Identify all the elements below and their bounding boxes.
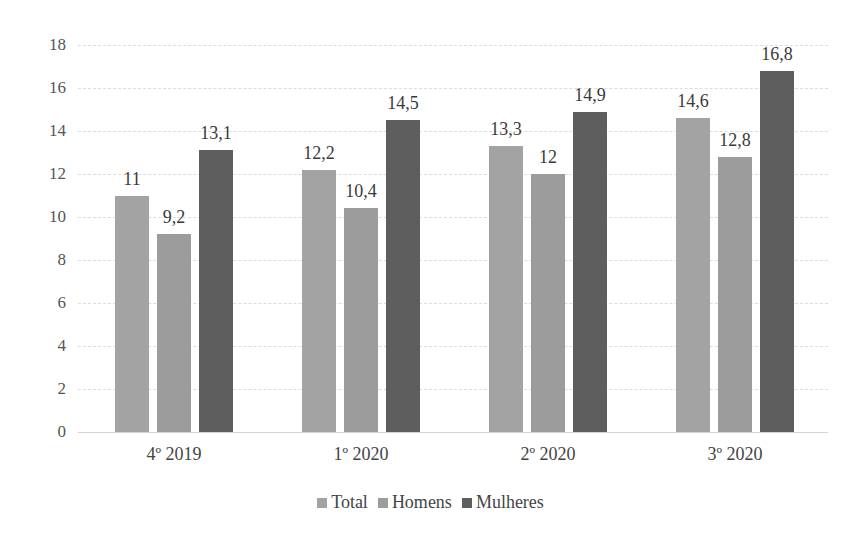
data-label: 9,2 [144, 207, 204, 228]
bar-chart: 024681012141618 119,213,112,210,414,513,… [0, 0, 861, 540]
bar-total [676, 118, 710, 432]
y-tick-label: 0 [58, 422, 67, 442]
y-tick-label: 6 [58, 293, 67, 313]
bar-mulheres [199, 150, 233, 432]
y-tick-label: 4 [58, 336, 67, 356]
data-label: 14,5 [373, 93, 433, 114]
data-label: 10,4 [331, 181, 391, 202]
bar-homens [531, 174, 565, 432]
data-label: 12 [518, 147, 578, 168]
data-label: 12,8 [705, 130, 765, 151]
bar-total [115, 196, 149, 433]
data-label: 16,8 [747, 44, 807, 65]
legend-label: Homens [392, 492, 452, 513]
bar-mulheres [760, 71, 794, 432]
y-tick-label: 12 [49, 164, 66, 184]
data-label: 13,3 [476, 119, 536, 140]
bar-mulheres [386, 120, 420, 432]
legend-item-mulheres: Mulheres [462, 492, 544, 513]
bar-homens [718, 157, 752, 432]
legend-label: Total [331, 492, 368, 513]
x-tick-label: 3º 2020 [665, 444, 805, 465]
x-tick-label: 2º 2020 [478, 444, 618, 465]
x-tick-label: 1º 2020 [291, 444, 431, 465]
x-axis-line [78, 432, 828, 433]
legend: TotalHomensMulheres [0, 492, 861, 513]
y-tick-label: 14 [49, 121, 66, 141]
bar-homens [157, 234, 191, 432]
y-tick-label: 2 [58, 379, 67, 399]
y-tick-label: 16 [49, 78, 66, 98]
data-label: 14,9 [560, 85, 620, 106]
y-tick-label: 10 [49, 207, 66, 227]
bar-homens [344, 208, 378, 432]
x-tick-label: 4º 2019 [104, 444, 244, 465]
bar-mulheres [573, 112, 607, 432]
bar-total [489, 146, 523, 432]
gridline [78, 174, 828, 175]
data-label: 13,1 [186, 123, 246, 144]
legend-swatch-icon [378, 498, 388, 508]
legend-swatch-icon [317, 498, 327, 508]
y-tick-label: 18 [49, 35, 66, 55]
legend-item-homens: Homens [378, 492, 452, 513]
gridline [78, 45, 828, 46]
legend-swatch-icon [462, 498, 472, 508]
legend-label: Mulheres [476, 492, 544, 513]
data-label: 11 [102, 169, 162, 190]
gridline [78, 88, 828, 89]
data-label: 12,2 [289, 143, 349, 164]
legend-item-total: Total [317, 492, 368, 513]
y-tick-label: 8 [58, 250, 67, 270]
bar-total [302, 170, 336, 432]
data-label: 14,6 [663, 91, 723, 112]
